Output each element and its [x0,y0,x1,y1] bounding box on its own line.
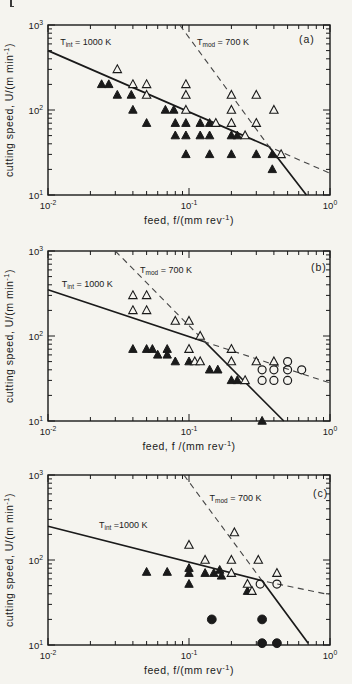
x-axis-label: feed, f/(mm rev-1) [144,213,234,226]
marker-circle-open [284,366,292,374]
marker-triangle-filled [161,105,169,113]
marker-circle-filled [273,639,282,648]
panel-letter: (b) [311,261,327,273]
marker-triangle-open [142,306,150,314]
panel-c-chart: 10-210-1100101102103feed, f/(mm rev-1)cu… [0,456,352,684]
marker-triangle-open [196,331,204,339]
tmod-line-label: Tmod = 700 K [197,37,249,48]
marker-triangle-open [243,580,251,588]
marker-triangle-filled [196,119,204,127]
panel-a-chart: 10-210-1100101102103feed, f/(mm rev-1)cu… [0,0,352,228]
marker-circle-open [270,376,278,384]
x-tick-label: 100 [323,425,338,437]
marker-triangle-filled [201,569,209,577]
x-tick-label: 100 [323,199,338,211]
marker-triangle-filled [205,150,213,158]
marker-triangle-open [182,90,190,98]
marker-triangle-filled [205,365,213,373]
y-tick-label: 102 [29,554,44,566]
x-tick-label: 10-2 [40,425,57,437]
panel-b: 10-210-1100101102103feed, f /(mm rev-1)c… [0,228,352,456]
marker-triangle-filled [252,150,260,158]
x-axis-label: feed, f /(mm rev-1) [142,439,235,452]
marker-circle-open [284,376,292,384]
marker-circle-open [256,580,264,588]
marker-triangle-open [227,105,235,113]
marker-triangle-open [227,345,235,353]
marker-triangle-filled [258,416,266,424]
y-tick-label: 103 [29,469,44,481]
marker-circle-filled [258,639,267,648]
x-tick-label: 10-2 [40,649,57,661]
marker-circle-filled [258,615,267,624]
marker-triangle-open [129,80,137,88]
marker-triangle-filled [105,80,113,88]
marker-circle-open [284,358,292,366]
panel-letter: (a) [299,33,315,45]
marker-triangle-open [171,316,179,324]
marker-triangle-open [113,65,121,73]
marker-triangle-filled [171,131,179,139]
tint-line [48,526,308,643]
panel-a: 10-210-1100101102103feed, f/(mm rev-1)cu… [0,0,352,228]
marker-triangle-open [129,306,137,314]
marker-triangle-open [227,555,235,563]
marker-triangle-open [142,80,150,88]
marker-circle-filled [207,615,216,624]
marker-triangle-filled [129,105,137,113]
y-tick-label: 101 [29,639,44,651]
marker-triangle-open [182,80,190,88]
marker-triangle-open [252,90,260,98]
marker-triangle-filled [171,119,179,127]
marker-triangle-filled [171,357,179,365]
y-tick-label: 102 [29,104,44,116]
marker-triangle-filled [214,365,222,373]
marker-circle-open [258,376,266,384]
marker-triangle-open [252,119,260,127]
marker-triangle-open [142,291,150,299]
y-tick-label: 101 [29,415,44,427]
marker-triangle-open [273,569,281,577]
marker-triangle-filled [196,131,204,139]
x-tick-label: 10-2 [40,199,57,211]
y-tick-label: 101 [29,189,44,201]
y-axis-label: cutting speed, U/(m min-1) [2,43,15,177]
marker-triangle-filled [163,568,171,576]
marker-triangle-filled [97,80,105,88]
panel-letter: (c) [313,487,328,499]
marker-triangle-filled [268,165,276,173]
marker-triangle-filled [182,119,190,127]
marker-triangle-open [270,105,278,113]
marker-triangle-open [185,316,193,324]
figure-three-panel-loglog: 10-210-1100101102103feed, f/(mm rev-1)cu… [0,0,352,684]
tint-line-label: Tint = 1000 K [60,37,111,48]
marker-triangle-open [227,119,235,127]
marker-triangle-open [230,528,238,536]
y-tick-label: 103 [29,245,44,257]
tint-line-label: Tint =1000 K [99,520,148,531]
plot-frame [48,475,330,645]
marker-triangle-filled [127,90,135,98]
x-axis-label: feed, f/(mm rev-1) [144,663,234,676]
y-axis-label: cutting speed, U/(m min-1) [2,493,15,627]
marker-triangle-filled [182,150,190,158]
y-axis-label: cutting speed, U/(m min-1) [2,269,15,403]
tint-line-label: Tint = 1000 K [62,279,113,290]
marker-triangle-filled [182,131,190,139]
marker-triangle-filled [142,568,150,576]
marker-circle-open [258,366,266,374]
marker-triangle-open [201,555,209,563]
x-tick-label: 100 [323,649,338,661]
marker-circle-open [270,366,278,374]
x-tick-label: 10-1 [181,425,198,437]
marker-triangle-filled [129,345,137,353]
marker-triangle-filled [148,345,156,353]
marker-triangle-open [254,555,262,563]
axis-ticks [48,475,330,645]
marker-triangle-filled [142,119,150,127]
x-tick-label: 10-1 [181,199,198,211]
marker-triangle-filled [113,90,121,98]
y-tick-label: 102 [29,330,44,342]
x-tick-label: 10-1 [181,649,198,661]
marker-triangle-open [129,291,137,299]
